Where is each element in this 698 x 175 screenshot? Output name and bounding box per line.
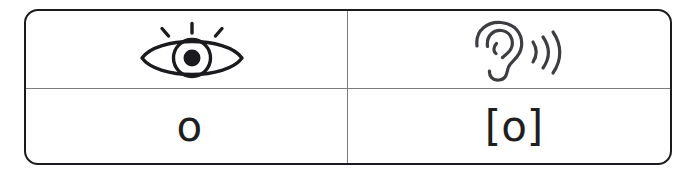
eye-icon bbox=[136, 21, 248, 83]
ear-icon bbox=[463, 19, 567, 83]
phonetic-transcription: [o] bbox=[485, 106, 543, 148]
orthographic-letter: o bbox=[176, 106, 202, 148]
cell-phonetic-value: [o] bbox=[348, 89, 670, 165]
cell-hearing-icon bbox=[348, 11, 670, 89]
cell-sight-icon bbox=[26, 11, 348, 89]
comparison-table: o [o] bbox=[24, 9, 672, 165]
cell-orthographic-value: o bbox=[26, 89, 348, 165]
table-grid: o [o] bbox=[26, 11, 670, 163]
figure-canvas: o [o] bbox=[0, 0, 698, 175]
